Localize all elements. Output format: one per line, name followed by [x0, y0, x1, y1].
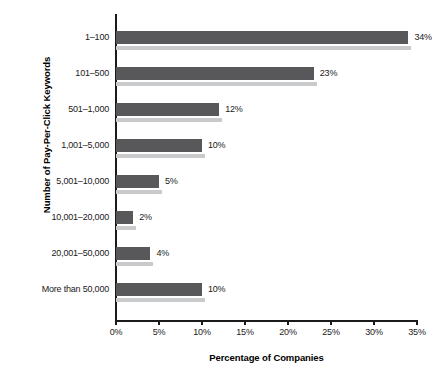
- bar-row: 34%: [116, 31, 417, 67]
- bar-value-label: 12%: [225, 103, 242, 116]
- y-axis-category-label: 501–1,000: [0, 103, 109, 116]
- x-axis-tick: [115, 320, 116, 325]
- bar-value-label: 34%: [414, 31, 431, 44]
- y-axis-category-label: 10,001–20,000: [0, 211, 109, 224]
- x-axis-tick: [416, 320, 417, 325]
- bar-shadow: [116, 262, 153, 266]
- bar-value-label: 5%: [165, 175, 178, 188]
- x-axis-tick: [287, 320, 288, 325]
- x-axis-tick: [373, 320, 374, 325]
- bar-shadow: [116, 190, 162, 194]
- bar-value-label: 10%: [208, 283, 225, 296]
- x-axis-tick-label: 35%: [408, 327, 425, 337]
- y-axis-category-label: 20,001–50,000: [0, 247, 109, 260]
- bar-value-label: 2%: [139, 211, 152, 224]
- bar-row: 10%: [116, 139, 417, 175]
- x-axis-tick: [330, 320, 331, 325]
- bar-shadow: [116, 82, 317, 86]
- bar-shadow: [116, 46, 411, 50]
- x-axis-tick-label: 30%: [365, 327, 382, 337]
- bar-shadow: [116, 118, 222, 122]
- bar-shadow: [116, 226, 136, 230]
- bar: [116, 31, 408, 44]
- x-axis-tick: [201, 320, 202, 325]
- x-axis-tick-label: 5%: [153, 327, 166, 337]
- x-axis-tick-label: 15%: [236, 327, 253, 337]
- bar-chart: Number of Pay-Per-Click Keywords 0%5%10%…: [0, 0, 447, 378]
- bar-value-label: 23%: [320, 67, 337, 80]
- y-axis-category-label: 1,001–5,000: [0, 139, 109, 152]
- x-axis-tick-label: 25%: [322, 327, 339, 337]
- x-axis-tick-label: 0%: [110, 327, 123, 337]
- bar-row: 10%: [116, 283, 417, 319]
- x-axis-tick-label: 10%: [193, 327, 210, 337]
- bar: [116, 175, 159, 188]
- bar: [116, 211, 133, 224]
- x-axis-tick-label: 20%: [279, 327, 296, 337]
- bar: [116, 247, 150, 260]
- x-axis-line: [115, 320, 417, 322]
- x-axis-tick: [158, 320, 159, 325]
- x-axis-tick: [244, 320, 245, 325]
- bar-value-label: 10%: [208, 139, 225, 152]
- y-axis-category-label: More than 50,000: [0, 283, 109, 296]
- bar-row: 2%: [116, 211, 417, 247]
- y-axis-category-label: 101–500: [0, 67, 109, 80]
- bar-row: 5%: [116, 175, 417, 211]
- y-axis-category-label: 5,001–10,000: [0, 175, 109, 188]
- bar-row: 4%: [116, 247, 417, 283]
- bar: [116, 139, 202, 152]
- bar: [116, 283, 202, 296]
- bar-row: 23%: [116, 67, 417, 103]
- bar-shadow: [116, 298, 205, 302]
- y-axis-category-label: 1–100: [0, 31, 109, 44]
- bar-row: 12%: [116, 103, 417, 139]
- bar: [116, 103, 219, 116]
- bar-shadow: [116, 154, 205, 158]
- bar-value-label: 4%: [156, 247, 169, 260]
- x-axis-title: Percentage of Companies: [116, 352, 417, 363]
- bar: [116, 67, 314, 80]
